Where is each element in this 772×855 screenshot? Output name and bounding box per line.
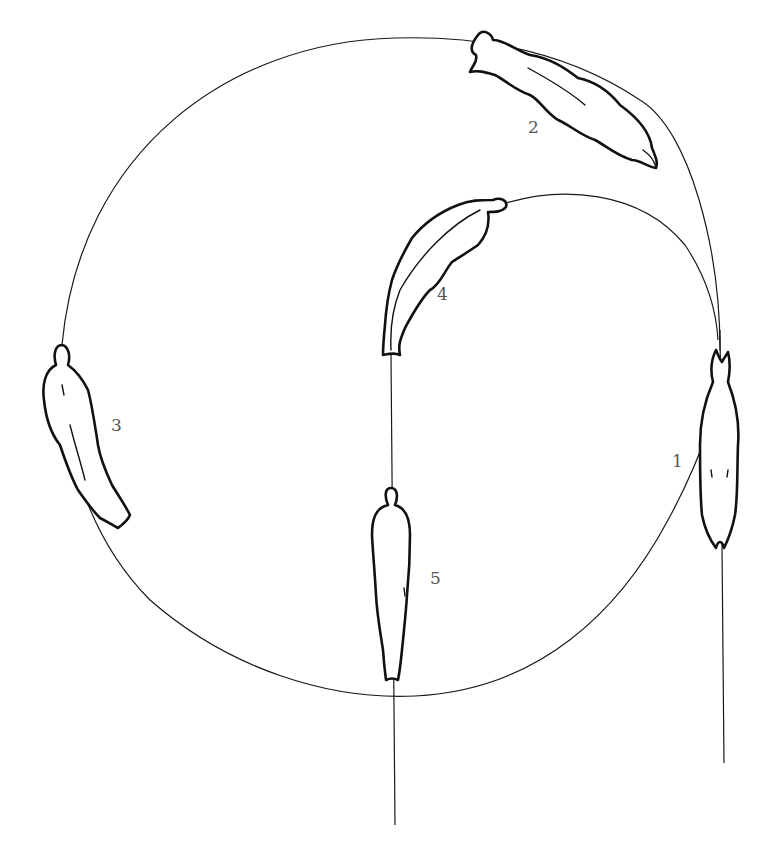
body-figure-4 (383, 199, 506, 355)
inner-trajectory-arc (500, 194, 718, 340)
position-label-2: 2 (528, 119, 539, 136)
position-label-1: 1 (672, 453, 683, 470)
body-figure-1 (700, 350, 738, 548)
motion-diagram: 1 2 3 4 5 (0, 0, 772, 855)
position-label-5: 5 (430, 570, 441, 587)
position-label-4: 4 (437, 286, 448, 303)
position-label-3: 3 (111, 417, 122, 434)
body-figure-2 (470, 32, 657, 168)
body-figure-3 (43, 345, 130, 528)
body-figure-5 (372, 488, 410, 680)
